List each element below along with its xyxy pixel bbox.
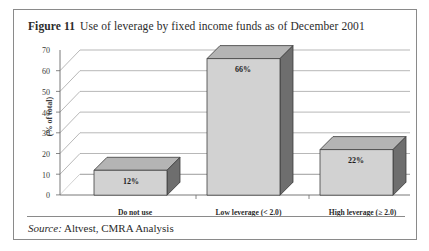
y-tick-label-0: 0 xyxy=(30,191,50,200)
source-lead: Source: xyxy=(28,222,62,234)
figure-title: Figure 11Use of leverage by fixed income… xyxy=(28,20,406,37)
bar-value-low-leverage: 66% xyxy=(212,65,274,74)
bar-value-high-leverage: 22% xyxy=(325,156,387,165)
chart-depth-lines xyxy=(60,50,80,195)
y-tick-label-40: 40 xyxy=(30,109,50,118)
y-tick-label-10: 10 xyxy=(30,171,50,180)
y-tick-label-60: 60 xyxy=(30,67,50,76)
source-divider xyxy=(27,216,405,217)
source-text: Altvest, CMRA Analysis xyxy=(64,222,174,234)
y-tick-label-70: 70 xyxy=(30,46,50,55)
source-note: Source: Altvest, CMRA Analysis xyxy=(28,222,174,234)
figure-number: Figure 11 xyxy=(28,20,75,32)
y-axis-ticks xyxy=(56,71,60,195)
bar-high-leverage xyxy=(320,137,406,196)
figure-title-text: Use of leverage by fixed income funds as… xyxy=(80,20,365,32)
chart-plot-area: (% of total) 70 60 50 40 30 20 10 0 12% … xyxy=(22,38,410,215)
bar-value-do-not-use: 12% xyxy=(100,177,162,186)
figure-frame: Figure 11Use of leverage by fixed income… xyxy=(13,9,417,240)
y-tick-label-30: 30 xyxy=(30,129,50,138)
y-tick-label-20: 20 xyxy=(30,150,50,159)
y-tick-label-50: 50 xyxy=(30,88,50,97)
